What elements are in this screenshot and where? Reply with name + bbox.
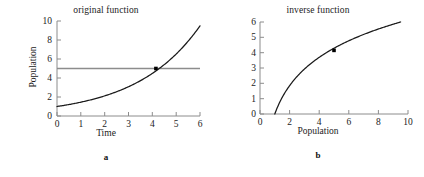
panel-b-xtick-6: 6 <box>346 117 351 127</box>
panel-a-ytick-8: 8 <box>47 35 52 45</box>
panel-b-x-ticks <box>260 110 408 114</box>
panel-b-ytick-0: 0 <box>251 109 256 119</box>
panel-b-x-tick-labels: 0 2 4 6 8 10 <box>258 117 413 127</box>
panel-a-ytick-4: 4 <box>47 73 52 83</box>
panel-b-xtick-2: 2 <box>287 117 292 127</box>
panel-b: inverse function Population b <box>212 0 424 177</box>
panel-b-ytick-2: 2 <box>251 78 256 88</box>
panel-a-y-tick-labels: 0 2 4 6 8 10 <box>43 16 53 121</box>
panel-a-ytick-2: 2 <box>47 92 52 102</box>
panel-a: original function Population Time a <box>0 0 212 177</box>
panel-b-ytick-4: 4 <box>251 48 256 58</box>
panel-a-ytick-6: 6 <box>47 54 52 64</box>
panel-b-plot: 0 1 2 3 4 5 6 0 2 4 6 8 10 <box>212 0 424 177</box>
panel-a-ytick-10: 10 <box>43 16 53 26</box>
panel-a-x-ticks <box>57 112 200 116</box>
panel-a-xtick-1: 1 <box>78 119 83 129</box>
panel-a-x-tick-labels: 0 1 2 3 4 5 6 <box>55 119 203 129</box>
panel-b-xtick-4: 4 <box>317 117 322 127</box>
panel-a-intersection-marker <box>154 67 158 71</box>
panel-a-xtick-5: 5 <box>174 119 179 129</box>
panel-a-plot: 0 2 4 6 8 10 0 1 2 3 4 5 6 <box>0 0 212 177</box>
panel-a-xtick-4: 4 <box>150 119 155 129</box>
panel-b-y-ticks <box>260 22 264 114</box>
panel-b-ytick-1: 1 <box>251 94 256 104</box>
panel-a-xtick-0: 0 <box>55 119 60 129</box>
panel-b-xtick-10: 10 <box>403 117 413 127</box>
panel-a-xtick-6: 6 <box>198 119 203 129</box>
panel-a-ytick-0: 0 <box>47 111 52 121</box>
figure-two-panel-chart: original function Population Time a <box>0 0 424 177</box>
panel-b-xtick-0: 0 <box>258 117 263 127</box>
panel-b-logarithmic-curve <box>275 22 401 114</box>
panel-b-point-marker <box>332 49 336 53</box>
panel-a-xtick-2: 2 <box>102 119 107 129</box>
panel-a-exponential-curve <box>57 26 200 107</box>
panel-a-xtick-3: 3 <box>126 119 131 129</box>
panel-b-ytick-6: 6 <box>251 17 256 27</box>
panel-b-xtick-8: 8 <box>376 117 381 127</box>
panel-b-ytick-3: 3 <box>251 63 256 73</box>
panel-b-ytick-5: 5 <box>251 32 256 42</box>
panel-b-y-tick-labels: 0 1 2 3 4 5 6 <box>251 17 256 119</box>
